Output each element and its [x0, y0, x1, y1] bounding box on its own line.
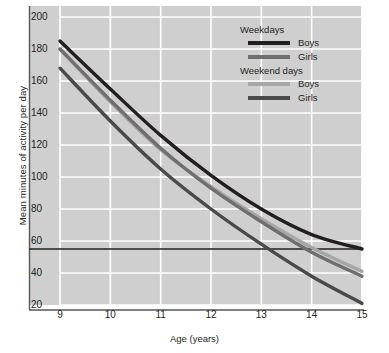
- legend-group: WeekdaysBoysGirls: [238, 24, 358, 62]
- y-tick-label: 180: [31, 43, 59, 54]
- legend-item-label: Boys: [298, 37, 319, 48]
- legend-item-label: Boys: [298, 78, 319, 89]
- y-tick-label: 40: [31, 267, 59, 278]
- legend-group-title: Weekend days: [240, 65, 358, 76]
- legend-item[interactable]: Boys: [238, 37, 358, 48]
- legend-item-label: Girls: [298, 51, 318, 62]
- y-tick-label: 100: [31, 171, 59, 182]
- legend-item[interactable]: Boys: [238, 78, 358, 89]
- legend-swatch-icon: [248, 82, 290, 86]
- x-tick-label: 15: [347, 309, 377, 320]
- y-tick-label: 140: [31, 107, 59, 118]
- chart-legend: WeekdaysBoysGirlsWeekend daysBoysGirls: [238, 24, 358, 106]
- legend-swatch-icon: [248, 96, 290, 100]
- y-tick-label: 200: [31, 11, 59, 22]
- legend-group-title: Weekdays: [240, 24, 358, 35]
- legend-swatch-icon: [248, 41, 290, 45]
- legend-swatch-icon: [248, 55, 290, 59]
- x-tick-label: 14: [297, 309, 327, 320]
- legend-item-label: Girls: [298, 92, 318, 103]
- legend-group: Weekend daysBoysGirls: [238, 65, 358, 103]
- x-tick-label: 12: [196, 309, 226, 320]
- x-tick-label: 11: [146, 309, 176, 320]
- y-axis-label: Mean minutes of activity per day: [17, 36, 28, 276]
- x-tick-label: 13: [246, 309, 276, 320]
- y-tick-label: 160: [31, 75, 59, 86]
- y-tick-label: 60: [31, 235, 59, 246]
- x-axis-label: Age (years): [0, 333, 389, 344]
- legend-item[interactable]: Girls: [238, 51, 358, 62]
- x-tick-label: 10: [95, 309, 125, 320]
- activity-line-chart: 20018016014012010080604020 9101112131415…: [0, 0, 389, 353]
- x-tick-label: 9: [45, 309, 75, 320]
- y-tick-label: 120: [31, 139, 59, 150]
- y-tick-label: 80: [31, 203, 59, 214]
- legend-item[interactable]: Girls: [238, 92, 358, 103]
